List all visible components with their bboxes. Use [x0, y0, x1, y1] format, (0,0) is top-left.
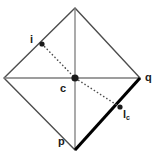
label-lc-subscript: c — [126, 114, 130, 121]
point-c — [71, 74, 78, 81]
dotted-line-i-c-lc — [42, 44, 120, 107]
bold-edge-p-q — [75, 78, 140, 150]
point-i — [39, 41, 44, 46]
label-point-c: c — [60, 83, 66, 94]
label-vertex-q: q — [145, 72, 152, 83]
label-vertex-p: p — [58, 136, 65, 147]
geometry-diagram — [0, 0, 161, 158]
figure-canvas: i c q p lc — [0, 0, 161, 158]
point-lc — [117, 104, 122, 109]
label-point-i: i — [30, 34, 33, 45]
label-point-lc: lc — [123, 109, 130, 121]
